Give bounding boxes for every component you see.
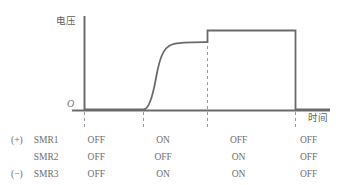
signal-name: SMR1 (34, 131, 86, 148)
polarity-label: (+) (0, 131, 34, 148)
state-cell: OFF (278, 131, 339, 148)
state-cell: OFF (86, 131, 128, 148)
state-cell: ON (199, 165, 278, 182)
state-cell: OFF (86, 148, 128, 165)
state-cell: ON (127, 131, 199, 148)
state-cell: OFF (199, 131, 278, 148)
table-row: (+) SMR1 OFF ON OFF OFF (0, 131, 339, 148)
state-cell: ON (127, 165, 199, 182)
x-axis-label: 时间 (308, 110, 328, 124)
signal-name: SMR3 (34, 165, 86, 182)
relay-state-table: (+) SMR1 OFF ON OFF OFF SMR2 OFF OFF ON … (0, 131, 339, 182)
state-cell: ON (199, 148, 278, 165)
table-row: (−) SMR3 OFF ON ON OFF (0, 165, 339, 182)
state-cell: OFF (127, 148, 199, 165)
voltage-vs-time-plot (0, 0, 339, 131)
polarity-label (0, 148, 34, 165)
timing-diagram: 电压 时间 O (+) SMR1 OFF ON OFF OFF SMR2 OFF… (0, 0, 339, 185)
polarity-label: (−) (0, 165, 34, 182)
signal-name: SMR2 (34, 148, 86, 165)
state-cell: OFF (278, 148, 339, 165)
origin-label: O (67, 98, 74, 109)
state-cell: OFF (86, 165, 128, 182)
y-axis-label: 电压 (56, 13, 76, 27)
table-row: SMR2 OFF OFF ON OFF (0, 148, 339, 165)
state-cell: OFF (278, 165, 339, 182)
